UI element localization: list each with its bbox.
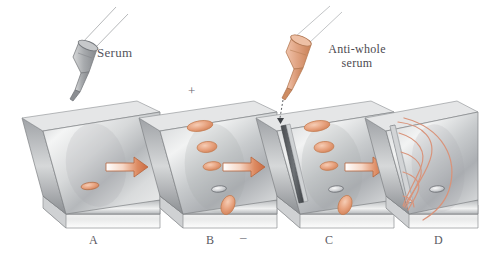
anti-whole-serum-label: Anti-whole serum	[318, 42, 396, 70]
serum-label: Serum	[97, 45, 132, 61]
minus-sign: –	[240, 229, 247, 245]
plus-sign: +	[188, 83, 195, 99]
figure-canvas: Serum Anti-whole serum + – A B C D	[0, 0, 492, 259]
panel-letter-d: D	[434, 233, 443, 248]
panel-letter-a: A	[89, 233, 98, 248]
panel-letter-c: C	[325, 233, 333, 248]
panel-letter-b: B	[206, 233, 214, 248]
immunoelectrophoresis-illustration	[0, 0, 492, 259]
